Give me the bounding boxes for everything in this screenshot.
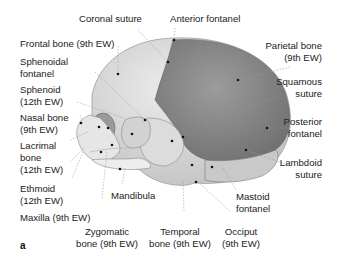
label-maxilla: Maxilla (9th EW) xyxy=(20,212,90,224)
label-ethmoid: Ethmoid (12th EW) xyxy=(20,183,63,207)
label-mandibula: Mandibula xyxy=(111,190,155,202)
label-mastoid-fontanel: Mastoid fontanel xyxy=(236,191,270,215)
panel-label: a xyxy=(20,240,26,251)
label-temporal-bone: Temporal bone (9th EW) xyxy=(144,226,216,250)
label-sphenoidal-fontanel: Sphenoidal fontanel xyxy=(20,56,68,80)
label-frontal-bone: Frontal bone (9th EW) xyxy=(20,38,114,50)
label-squamous-suture: Squamous suture xyxy=(262,76,322,100)
label-parietal-bone: Parietal bone (9th EW) xyxy=(262,40,322,64)
label-lambdoid-suture: Lambdoid suture xyxy=(262,157,322,181)
label-sphenoid: Sphenoid (12th EW) xyxy=(20,84,63,108)
label-coronal-suture: Coronal suture xyxy=(79,13,142,25)
label-nasal-bone: Nasal bone (9th EW) xyxy=(20,112,69,136)
label-zygomatic-bone: Zygomatic bone (9th EW) xyxy=(70,226,144,250)
label-anterior-fontanel: Anterior fontanel xyxy=(170,13,240,25)
mandible xyxy=(92,158,151,170)
label-occiput: Occiput (9th EW) xyxy=(216,226,266,250)
label-posterior-fontanel: Posterior fontanel xyxy=(262,116,322,140)
figure: Coronal suture Anterior fontanel Frontal… xyxy=(0,0,338,261)
label-lacrimal-bone: Lacrimal bone (12th EW) xyxy=(20,140,63,176)
